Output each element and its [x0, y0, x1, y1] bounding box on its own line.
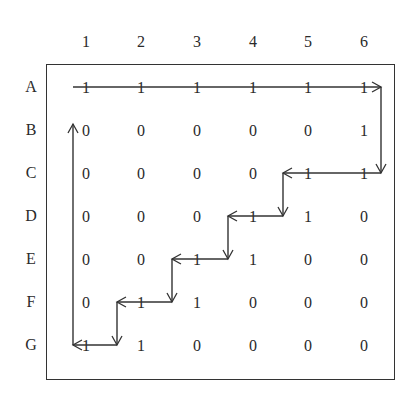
traversal-path-arrows — [0, 0, 414, 401]
